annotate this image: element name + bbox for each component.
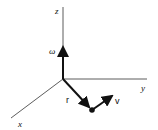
y-axis-label: y <box>140 83 145 93</box>
vector-diagram: z y x ω r v <box>0 0 158 130</box>
x-axis-label: x <box>17 119 22 129</box>
v-label: v <box>115 96 120 106</box>
r-label: r <box>66 95 69 105</box>
z-axis-label: z <box>54 6 59 16</box>
omega-label: ω <box>49 46 55 56</box>
x-axis <box>11 79 63 118</box>
v-vector <box>92 96 112 110</box>
